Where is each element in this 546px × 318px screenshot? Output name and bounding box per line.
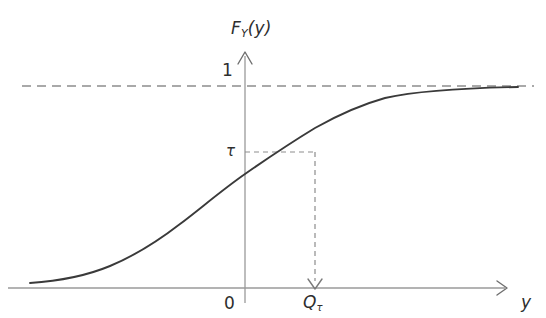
cdf-curve	[30, 87, 518, 283]
y-axis-title-main: F	[231, 18, 241, 38]
x-tick-label-quantile: Qτ	[303, 294, 322, 313]
plot-canvas	[0, 0, 546, 318]
y-axis-title: FY(y)	[231, 20, 272, 39]
origin-label-zero: 0	[224, 295, 235, 312]
cdf-quantile-figure: FY(y) 1 τ 0 Qτ y	[0, 0, 546, 318]
quantile-label-main: Q	[303, 292, 316, 312]
x-axis-label: y	[521, 294, 531, 311]
y-axis-title-subscript: Y	[241, 27, 248, 40]
y-tick-label-one: 1	[222, 62, 233, 79]
y-tick-label-tau: τ	[226, 144, 235, 159]
y-axis-title-argument: (y)	[248, 18, 272, 38]
quantile-label-subscript: τ	[316, 302, 322, 313]
